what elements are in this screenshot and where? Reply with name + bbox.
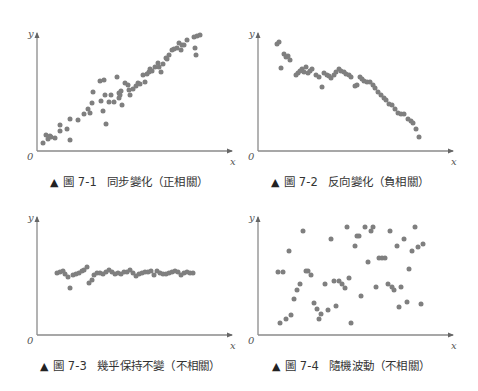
data-point [332, 279, 337, 284]
data-point [301, 229, 306, 234]
data-point [306, 269, 311, 274]
data-point [292, 297, 297, 302]
data-point [343, 286, 348, 291]
data-point [388, 229, 393, 234]
data-point [402, 237, 407, 242]
x-axis-label: x [451, 340, 457, 351]
data-point [397, 305, 402, 310]
data-point [317, 317, 322, 322]
data-point [278, 321, 283, 326]
data-point [312, 301, 317, 306]
data-point [359, 294, 364, 299]
figure-caption: ▲圖 7-4隨機波動（不相關） [272, 357, 430, 373]
data-point [353, 244, 358, 249]
data-point [345, 225, 350, 230]
data-point [395, 244, 400, 249]
data-point [347, 276, 352, 281]
figure-7-4: yx0 ▲圖 7-4隨機波動（不相關） [0, 0, 239, 195]
figure-title: 隨機波動（不相關） [329, 359, 430, 373]
data-point [309, 273, 314, 278]
data-point [357, 234, 362, 239]
data-point [329, 237, 334, 242]
data-point [340, 282, 345, 287]
data-point [366, 260, 371, 265]
data-point [363, 225, 368, 230]
data-point [386, 282, 391, 287]
data-point [416, 245, 421, 250]
data-point [410, 249, 415, 254]
data-point [295, 288, 300, 293]
data-point [334, 304, 339, 309]
data-point [374, 285, 379, 290]
data-point [371, 225, 376, 230]
data-point [407, 267, 412, 272]
data-point [289, 313, 294, 318]
y-axis-label: y [248, 212, 255, 223]
y-arrow-icon [256, 216, 261, 222]
data-point [287, 249, 292, 254]
data-point [421, 242, 426, 247]
data-point [405, 300, 410, 305]
scatter-plot-random: yx0 [0, 0, 478, 391]
data-point [349, 321, 354, 326]
data-point [319, 312, 324, 317]
data-point [298, 282, 303, 287]
triangle-marker-icon: ▲ [272, 360, 281, 373]
x-arrow-icon [448, 333, 454, 338]
data-point [326, 308, 331, 313]
data-point [281, 270, 286, 275]
figure-number: 圖 7-4 [285, 359, 319, 373]
data-point [323, 282, 328, 287]
data-point [383, 256, 388, 261]
data-point [276, 270, 281, 275]
data-point [419, 302, 424, 307]
data-point [392, 288, 397, 293]
data-point [315, 307, 320, 312]
origin-label: 0 [248, 335, 255, 346]
data-point [284, 317, 289, 322]
data-point [399, 285, 404, 290]
data-point [413, 225, 418, 230]
